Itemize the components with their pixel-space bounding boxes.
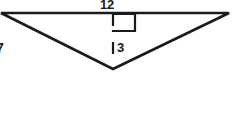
triangle-diagram-svg <box>0 0 249 139</box>
dimension-label-top-side: 12 <box>100 0 114 11</box>
geometry-figure-canvas: 12 3 7 <box>0 0 249 139</box>
dimension-label-height: 3 <box>117 41 124 54</box>
triangle-outline <box>1 13 229 69</box>
dimension-label-left-side: 7 <box>0 41 3 55</box>
